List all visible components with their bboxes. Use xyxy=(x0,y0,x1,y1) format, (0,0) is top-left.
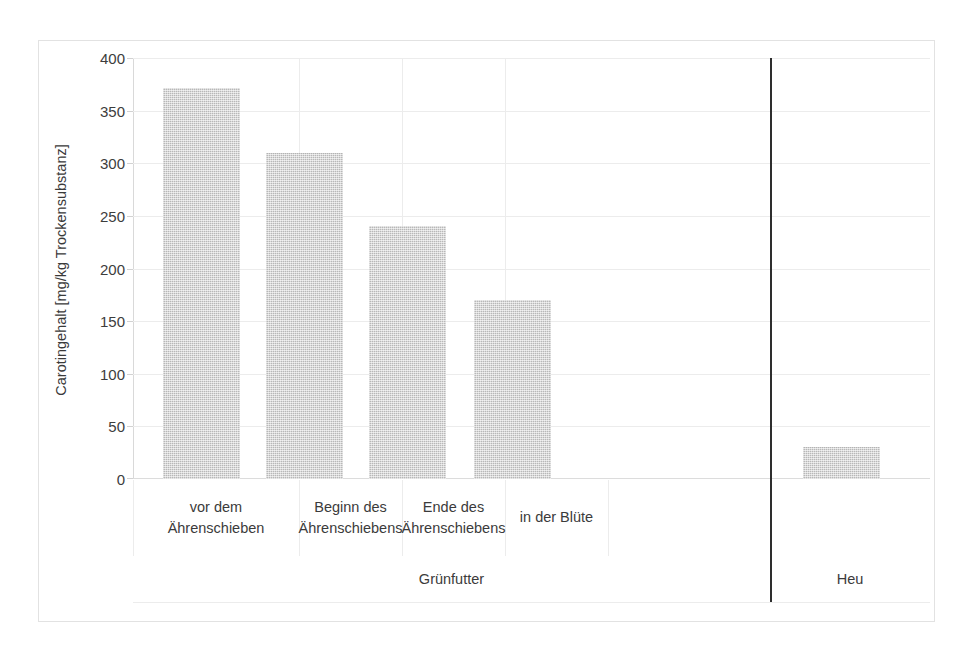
y-tick-label-200: 200 xyxy=(83,260,125,277)
y-tick-label-0: 0 xyxy=(83,471,125,488)
category-label-2: Beginn des Ährenschiebens xyxy=(299,480,402,556)
bar-ende-des-aehrenschiebens xyxy=(369,226,446,479)
category-label-3-line1: Ende des xyxy=(423,499,484,515)
group-separator-line xyxy=(770,58,772,602)
chart-figure: Carotingehalt [mg/kg Trockensubstanz] 40… xyxy=(0,0,975,652)
x-axis-category-labels: vor dem Ährenschieben Beginn des Ährensc… xyxy=(133,480,930,556)
category-label-4: in der Blüte xyxy=(505,480,608,556)
category-label-1-line1: vor dem xyxy=(190,499,242,515)
x-axis-group-labels: Grünfutter Heu xyxy=(133,556,930,602)
gridline-350 xyxy=(133,111,930,112)
category-label-3: Ende des Ährenschiebens xyxy=(402,480,505,556)
group-label-gruenfutter: Grünfutter xyxy=(133,556,770,602)
bar-vor-dem-aehrenschieben xyxy=(163,88,240,480)
y-axis-title: Carotingehalt [mg/kg Trockensubstanz] xyxy=(48,60,74,480)
category-label-1: vor dem Ährenschieben xyxy=(133,480,299,556)
y-axis-title-label: Carotingehalt [mg/kg Trockensubstanz] xyxy=(53,144,69,395)
bar-heu xyxy=(803,447,880,479)
gridline-200 xyxy=(133,269,930,270)
category-label-1-line2: Ährenschieben xyxy=(168,520,265,536)
y-tick-label-300: 300 xyxy=(83,155,125,172)
y-tick-label-50: 50 xyxy=(83,418,125,435)
y-tick-label-250: 250 xyxy=(83,207,125,224)
y-tick-label-100: 100 xyxy=(83,365,125,382)
category-label-4-line1: in der Blüte xyxy=(520,509,593,525)
y-tick-label-150: 150 xyxy=(83,313,125,330)
bar-beginn-des-aehrenschiebens xyxy=(266,153,343,479)
gridline-300 xyxy=(133,163,930,164)
plot-area xyxy=(133,58,930,479)
group-label-heu: Heu xyxy=(770,556,930,602)
category-label-2-line2: Ährenschiebens xyxy=(299,520,403,536)
y-tick-label-350: 350 xyxy=(83,102,125,119)
y-axis-tick-labels: 400 350 300 250 200 150 100 50 0 xyxy=(83,58,125,479)
bar-in-der-bluete xyxy=(474,300,551,479)
category-label-2-line1: Beginn des xyxy=(314,499,387,515)
x-axis-bottom-rule xyxy=(133,602,930,603)
gridline-250 xyxy=(133,216,930,217)
category-label-5 xyxy=(608,480,930,556)
category-label-3-line2: Ährenschiebens xyxy=(402,520,506,536)
gridline-400 xyxy=(133,58,930,59)
y-tick-label-400: 400 xyxy=(83,50,125,67)
